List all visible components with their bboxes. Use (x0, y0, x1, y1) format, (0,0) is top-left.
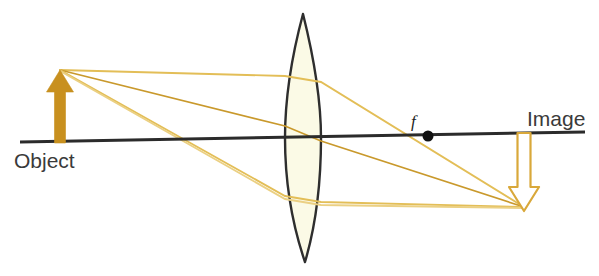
diagram-canvas: Object Image f (0, 0, 599, 276)
object-arrow (47, 70, 74, 143)
image-arrow (509, 133, 539, 211)
focal-point-dot (423, 131, 434, 142)
focal-point-label: f (411, 112, 418, 131)
optics-ray-diagram: Object Image f (0, 0, 599, 276)
image-label: Image (527, 107, 585, 130)
object-label: Object (14, 149, 75, 172)
